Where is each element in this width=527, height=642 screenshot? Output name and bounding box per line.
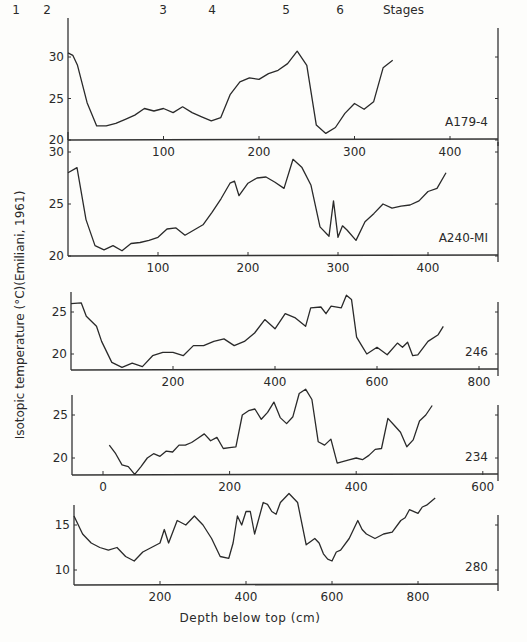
x-tick-label: 300 — [327, 261, 350, 275]
y-tick-label: 20 — [53, 451, 68, 465]
y-tick-label: 25 — [49, 92, 64, 106]
x-axis-label: Depth below top (cm) — [180, 611, 321, 625]
stage-label: 3 — [159, 3, 167, 17]
x-tick-label: 800 — [468, 375, 491, 389]
stage-label: 5 — [282, 3, 290, 17]
panel-234: 20250200400600234 — [53, 389, 498, 494]
x-tick-label: 300 — [343, 145, 366, 159]
x-tick-label: 600 — [321, 590, 344, 604]
y-axis-label: Isotopic temperature (°C)(Emiliani, 1961… — [13, 191, 27, 440]
y-tick-label: 15 — [55, 518, 70, 532]
core-label: A240-MI — [439, 231, 488, 245]
series-line-234 — [109, 389, 432, 474]
stage-label: 2 — [43, 3, 51, 17]
x-tick-label: 600 — [471, 480, 494, 494]
stage-label: 6 — [336, 3, 344, 17]
y-tick-label: 25 — [53, 408, 68, 422]
panel-A179-4: 202530100200300400A179-4 — [49, 18, 498, 159]
y-tick-label: 30 — [49, 50, 64, 64]
x-tick-label: 200 — [248, 145, 271, 159]
core-label: 246 — [465, 345, 488, 359]
x-tick-label: 600 — [366, 375, 389, 389]
x-tick-label: 400 — [235, 590, 258, 604]
stages-title: Stages — [383, 3, 424, 17]
series-line-280 — [74, 494, 435, 562]
core-label: 280 — [465, 560, 488, 574]
x-tick-label: 100 — [147, 261, 170, 275]
x-tick-label: 100 — [152, 145, 175, 159]
panel-A240-MI: 202530100200300400A240-MI — [49, 132, 498, 275]
x-tick-label: 200 — [237, 261, 260, 275]
series-line-A179-4 — [68, 51, 393, 133]
x-tick-label: 400 — [439, 145, 462, 159]
y-tick-label: 10 — [55, 563, 70, 577]
x-tick-label: 0 — [99, 480, 107, 494]
panel-246: 2025200400600800246 — [52, 292, 498, 389]
x-tick-label: 400 — [264, 375, 287, 389]
stage-label: 1 — [12, 3, 20, 17]
series-line-246 — [71, 295, 443, 367]
y-tick-label: 20 — [52, 347, 67, 361]
panel-280: 1015200400600800280 — [55, 494, 498, 605]
y-tick-label: 20 — [49, 249, 64, 263]
x-tick-label: 800 — [407, 590, 430, 604]
x-tick-label: 200 — [162, 375, 185, 389]
x-tick-label: 400 — [417, 261, 440, 275]
chart-panels: 202530100200300400A179-42025301002003004… — [49, 18, 498, 604]
stage-label: 4 — [208, 3, 216, 17]
chart-canvas: 123456Stages 202530100200300400A179-4202… — [0, 0, 527, 642]
core-label: A179-4 — [445, 115, 488, 129]
stages-labels: 123456Stages — [12, 3, 424, 17]
y-tick-label: 25 — [49, 197, 64, 211]
core-label: 234 — [465, 450, 488, 464]
x-tick-label: 400 — [345, 480, 368, 494]
series-line-A240-MI — [68, 159, 446, 251]
y-tick-label: 25 — [52, 305, 67, 319]
y-tick-label: 30 — [49, 145, 64, 159]
x-tick-label: 200 — [218, 480, 241, 494]
x-tick-label: 200 — [149, 590, 172, 604]
